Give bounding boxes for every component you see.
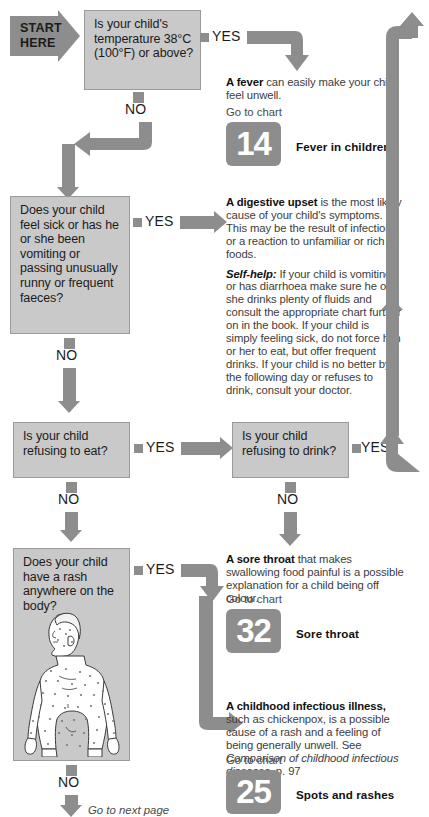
go-to-chart-fever: Go to chart [226,106,282,118]
advice-digestive-selfhelp-body: If your child is vomiting or has diarrho… [226,268,401,396]
yes-bullet-sick-vomiting [133,218,142,227]
question-text-sick-vomiting: Does your child feel sick or has he or s… [20,203,124,305]
yes-bullet-temperature [200,33,209,42]
question-box-refusing-eat[interactable]: Is your child refusing to eat? [13,422,130,478]
question-box-temperature[interactable]: Is your child's temperature 38°C (100°F)… [84,10,201,90]
advice-fever: A fever can easily make your child feel … [226,76,402,109]
advice-digestive-upset: A digestive upset is the most likely cau… [226,196,402,404]
return-path-top-hook [386,24,424,64]
start-here-label: STARTHERE [20,21,62,51]
question-text-rash: Does your child have a rash anywhere on … [23,555,124,613]
yes-label-rash: YES [146,561,175,577]
no-arrowhead-sick-vomiting [58,401,80,413]
chart-title-sore-throat: Sore throat [296,627,359,640]
go-to-chart-sore-throat: Go to chart [226,593,282,605]
yes-bullet-refusing-eat [134,444,143,453]
chart-number-fever[interactable]: 14 [226,122,281,166]
start-here-arrow: STARTHERE [8,10,82,62]
yes-bullet-rash [134,566,143,575]
no-arrowhead-rash [60,805,82,817]
yes-label-temperature: YES [212,28,241,44]
advice-sore-throat-lead: A sore throat [226,553,295,565]
yes-connector-sick-vomiting [180,216,216,229]
flowchart-page: STARTHERE Is your child's temperature 38… [0,0,429,817]
no-connector-sick-vomiting [63,368,76,404]
no-label-refusing-drink: NO [277,491,298,507]
advice-digestive-selfhelp-lead: Self-help: [226,268,276,280]
no-arrowhead-refusing-drink [279,534,301,546]
no-label-refusing-eat: NO [58,491,79,507]
no-arrowhead-refusing-eat [60,530,82,542]
chart-title-infectious: Spots and rashes [296,788,394,801]
no-label-temperature: NO [125,101,146,117]
question-box-sick-vomiting[interactable]: Does your child feel sick or has he or s… [10,196,130,334]
chart-number-sore-throat[interactable]: 32 [226,609,281,653]
chart-title-fever: Fever in children [296,140,390,153]
question-box-rash[interactable]: Does your child have a rash anywhere on … [13,548,130,761]
no-path-temperature [62,122,152,186]
advice-infectious-lead: A childhood infectious illness, [226,700,386,712]
yes-hook-temperature [273,31,309,71]
return-path-lower-hook [386,432,420,472]
advice-digestive-lead: A digestive upset [226,196,317,208]
child-with-rash-illustration [22,609,123,757]
question-text-refusing-eat: Is your child refusing to eat? [23,429,124,458]
yes-label-refusing-eat: YES [146,439,175,455]
yes-label-sick-vomiting: YES [145,213,174,229]
no-label-rash: NO [58,774,79,790]
go-to-chart-infectious: Go to chart [226,754,282,766]
return-path-lower-shaft [386,310,399,436]
next-page-label: Go to next page [88,804,169,816]
chart-number-infectious[interactable]: 25 [226,770,281,814]
no-label-sick-vomiting: NO [56,347,77,363]
question-text-refusing-drink: Is your child refusing to drink? [242,429,343,458]
return-path-upper-shaft [386,60,399,310]
yes-bullet-refusing-drink [352,444,361,453]
question-text-temperature: Is your child's temperature 38°C (100°F)… [94,17,195,61]
yes-connector-refusing-eat [181,442,223,455]
advice-fever-lead: A fever [226,76,263,88]
yes-branch-shaft-rash [199,596,213,715]
question-box-refusing-drink[interactable]: Is your child refusing to drink? [232,422,349,478]
advice-infectious-body: such as chickenpox, is a possible cause … [226,713,390,751]
